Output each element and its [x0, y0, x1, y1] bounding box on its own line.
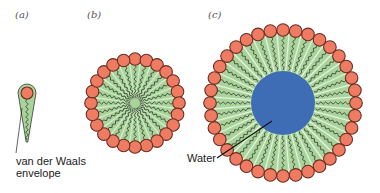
- reverse-micelle-c: [204, 24, 363, 183]
- panel-label-b: (b): [87, 9, 101, 20]
- single-surfactant-molecule: [18, 84, 36, 142]
- van-der-waals-label: van der Waals envelope: [16, 155, 86, 179]
- van-der-waals-line2: envelope: [16, 167, 86, 179]
- panel-label-c: (c): [208, 9, 221, 20]
- panel-label-a: (a): [15, 9, 29, 20]
- water-label: Water: [187, 152, 216, 164]
- micelle-b: [85, 53, 186, 154]
- van-der-waals-line1: van der Waals: [16, 155, 86, 167]
